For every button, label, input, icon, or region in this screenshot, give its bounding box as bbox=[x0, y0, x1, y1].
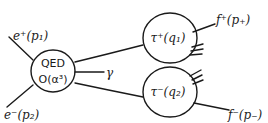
tau-plus-label: τ⁺(q₁) bbox=[151, 31, 186, 45]
f-minus-line bbox=[194, 103, 229, 110]
qed-blob-label: QED bbox=[41, 57, 65, 70]
positron-label: e⁺(p₁) bbox=[13, 29, 49, 43]
f-minus-label: f⁻(p₋) bbox=[227, 108, 262, 122]
f-plus-line bbox=[193, 24, 215, 32]
qed-order-label: O(α³) bbox=[39, 73, 68, 86]
feynman-diagram: e⁺(p₁) e⁻(p₂) QED O(α³) γ τ⁺(q₁) f⁺(p₊) … bbox=[0, 0, 268, 123]
photon-label: γ bbox=[106, 66, 114, 80]
electron-label: e⁻(p₂) bbox=[4, 108, 40, 122]
electron-line bbox=[7, 85, 33, 107]
f-plus-label: f⁺(p₊) bbox=[215, 13, 250, 27]
tau-minus-label: τ⁻(q₂) bbox=[151, 85, 186, 99]
tau-plus-propagator bbox=[75, 45, 143, 62]
tau-minus-propagator bbox=[75, 83, 143, 97]
